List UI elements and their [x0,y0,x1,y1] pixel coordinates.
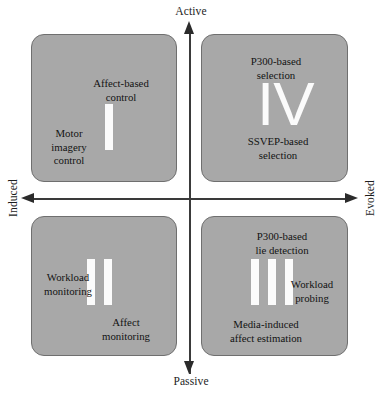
horizontal-axis-line [32,198,346,200]
arrow-up-icon [184,21,194,34]
axis-label-induced: Induced [7,172,19,224]
quadrant-iv-item-p300-based-selection: P300-based selection [214,55,338,82]
numeral-bar [104,259,112,305]
axis-label-evoked: Evoked [364,172,376,224]
arrow-down-icon [184,361,194,374]
vertical-axis-line [189,26,191,374]
arrow-right-icon [345,193,358,203]
numeral-bar [268,259,276,305]
quadrant-i-item-affect-based-control: Affect-based control [68,77,174,104]
quadrant-iv-item-ssvep-based-selection: SSVEP-based selection [216,135,340,162]
quadrant-numeral-i [105,104,113,150]
axis-label-passive: Passive [0,375,382,387]
quadrant-box-iv: IV P300-based selection SSVEP-based sele… [201,34,348,182]
quadrant-iii-item-workload-probing: Workload probing [283,278,341,305]
quadrant-iii-item-media-induced-affect-estimation: Media-induced affect estimation [204,318,328,345]
arrow-left-icon [21,193,34,203]
quadrant-i-item-motor-imagery-control: Motor imagery control [38,127,100,168]
quadrant-ii-item-workload-monitoring: Workload monitoring [34,271,102,298]
quadrant-box-ii: Workload monitoring Affect monitoring [31,216,177,356]
quadrant-iii-item-p300-based-lie-detection: P300-based lie detection [224,230,340,257]
quadrant-box-i: Affect-based control Motor imagery contr… [31,34,177,182]
quadrant-diagram: Active Passive Induced Evoked Affect-bas… [0,0,382,395]
quadrant-ii-item-affect-monitoring: Affect monitoring [84,316,168,343]
numeral-bar [251,259,259,305]
quadrant-numeral-iv: IV [257,78,314,130]
numeral-bar [105,104,113,150]
quadrant-box-iii: P300-based lie detection Workload probin… [201,216,348,356]
axis-label-active: Active [0,5,382,17]
